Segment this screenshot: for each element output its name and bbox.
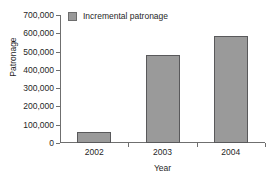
plot-area: 0100,000200,000300,000400,000500,000600,… [60, 15, 265, 143]
y-axis-tick-label: 700,000 [23, 11, 54, 20]
bar-2002 [77, 132, 111, 143]
bar-2004 [214, 36, 248, 143]
y-axis-tick [56, 33, 60, 34]
y-axis-tick [56, 106, 60, 107]
x-axis-tick [265, 143, 266, 147]
x-axis-tick-label-2004: 2004 [221, 148, 240, 157]
x-axis-title: Year [60, 163, 265, 173]
y-axis-tick-label: 500,000 [23, 47, 54, 56]
x-axis-tick [197, 143, 198, 147]
bar-chart: Incremental patronage Patronage 0100,000… [0, 0, 274, 183]
y-axis-tick-label: 0 [49, 139, 54, 148]
y-axis-tick [56, 88, 60, 89]
y-axis-tick-label: 300,000 [23, 84, 54, 93]
y-axis-tick-label: 600,000 [23, 29, 54, 38]
x-axis-tick-label-2002: 2002 [85, 148, 104, 157]
y-axis-tick-label: 200,000 [23, 102, 54, 111]
y-axis-tick [56, 70, 60, 71]
x-axis-tick [128, 143, 129, 147]
y-axis-tick [56, 143, 60, 144]
bar-2003 [146, 55, 180, 143]
y-axis-tick [56, 52, 60, 53]
x-axis-tick-label-2003: 2003 [153, 148, 172, 157]
y-axis-title: Patronage [8, 22, 18, 92]
y-axis-line [60, 15, 61, 143]
y-axis-tick-label: 400,000 [23, 65, 54, 74]
y-axis-tick [56, 125, 60, 126]
y-axis-tick-label: 100,000 [23, 120, 54, 129]
y-axis-tick [56, 15, 60, 16]
